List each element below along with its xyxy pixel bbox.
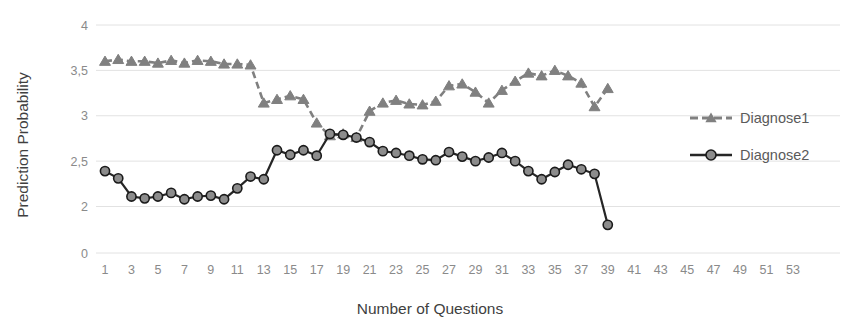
data-point-circle — [206, 191, 215, 200]
x-axis-tick-label: 35 — [548, 263, 562, 277]
data-point-circle — [550, 167, 559, 176]
data-point-circle — [431, 156, 440, 165]
x-axis-tick-label: 37 — [574, 263, 588, 277]
x-axis-tick-label: 41 — [627, 263, 641, 277]
x-axis-tick-label: 47 — [707, 263, 721, 277]
data-point-circle — [272, 146, 281, 155]
y-axis-tick-label: 0 — [81, 247, 88, 261]
data-point-circle — [339, 130, 348, 139]
legend-label-diagnose2[interactable]: Diagnose2 — [740, 147, 809, 163]
data-point-circle — [153, 192, 162, 201]
x-axis-tick-label: 3 — [128, 263, 135, 277]
data-point-circle — [590, 169, 599, 178]
x-axis-tick-label: 31 — [495, 263, 509, 277]
x-axis-tick-labels: 1357911131517192123252729313335373941434… — [102, 263, 800, 277]
x-axis-tick-label: 49 — [733, 263, 747, 277]
y-axis-tick-label: 2 — [81, 200, 88, 214]
data-point-circle — [299, 146, 308, 155]
x-axis-tick-label: 45 — [680, 263, 694, 277]
legend-marker-circle — [706, 150, 716, 160]
data-point-circle — [286, 150, 295, 159]
x-axis-tick-label: 27 — [442, 263, 456, 277]
x-axis-tick-label: 29 — [469, 263, 483, 277]
x-axis-tick-label: 25 — [416, 263, 430, 277]
x-axis-tick-label: 39 — [601, 263, 615, 277]
data-point-circle — [219, 195, 228, 204]
data-point-triangle — [166, 55, 177, 64]
series-line — [105, 134, 608, 225]
x-axis-tick-label: 9 — [207, 263, 214, 277]
data-point-circle — [365, 137, 374, 146]
series-line — [105, 60, 608, 138]
x-axis-tick-label: 5 — [154, 263, 161, 277]
data-point-circle — [167, 188, 176, 197]
data-point-triangle — [377, 98, 388, 107]
x-axis-title: Number of Questions — [357, 300, 504, 317]
data-point-circle — [312, 151, 321, 160]
x-axis-tick-label: 15 — [283, 263, 297, 277]
data-point-circle — [127, 192, 136, 201]
data-point-triangle — [179, 58, 190, 67]
data-point-triangle — [523, 68, 534, 77]
data-point-circle — [100, 167, 109, 176]
data-point-circle — [180, 195, 189, 204]
x-axis-tick-label: 11 — [231, 263, 244, 277]
data-point-circle — [391, 148, 400, 157]
data-point-circle — [563, 160, 572, 169]
data-point-triangle — [391, 95, 402, 104]
x-axis-tick-label: 19 — [336, 263, 350, 277]
data-point-circle — [444, 147, 453, 156]
data-point-circle — [471, 157, 480, 166]
data-point-triangle — [285, 91, 296, 100]
data-series-layer — [100, 54, 614, 229]
x-axis-tick-label: 1 — [102, 263, 109, 277]
data-point-circle — [233, 184, 242, 193]
data-point-triangle — [192, 55, 203, 64]
x-axis-tick-label: 21 — [363, 263, 377, 277]
data-point-circle — [352, 133, 361, 142]
y-axis-tick-label: 3,5 — [71, 64, 88, 78]
x-axis-tick-label: 17 — [310, 263, 324, 277]
x-axis-tick-label: 23 — [389, 263, 403, 277]
y-axis-tick-labels: 022,533,54 — [71, 19, 88, 261]
x-axis-tick-label: 43 — [654, 263, 668, 277]
data-point-circle — [418, 155, 427, 164]
data-point-circle — [484, 153, 493, 162]
x-axis-tick-label: 13 — [257, 263, 271, 277]
data-point-circle — [577, 165, 586, 174]
series-diagnose2 — [100, 129, 612, 229]
data-point-triangle — [602, 83, 613, 92]
y-axis-tick-label: 4 — [81, 19, 88, 33]
x-axis-tick-label: 7 — [181, 263, 188, 277]
y-axis-tick-label: 3 — [81, 109, 88, 123]
data-point-circle — [458, 152, 467, 161]
data-point-triangle — [483, 98, 494, 107]
data-point-circle — [246, 172, 255, 181]
data-point-triangle — [549, 65, 560, 74]
data-point-circle — [378, 147, 387, 156]
chart-legend: Diagnose1Diagnose2 — [690, 110, 809, 163]
data-point-triangle — [576, 78, 587, 87]
data-point-circle — [193, 192, 202, 201]
x-axis-tick-label: 33 — [521, 263, 535, 277]
series-diagnose1 — [100, 54, 614, 141]
data-point-circle — [497, 148, 506, 157]
data-point-circle — [524, 167, 533, 176]
data-point-circle — [405, 151, 414, 160]
x-axis-tick-label: 53 — [786, 263, 800, 277]
data-point-circle — [511, 157, 520, 166]
data-point-circle — [603, 220, 612, 229]
y-axis-title: Prediction Probability — [14, 72, 31, 218]
y-axis-tick-label: 2,5 — [71, 155, 88, 169]
legend-label-diagnose1[interactable]: Diagnose1 — [740, 110, 809, 126]
data-point-circle — [325, 129, 334, 138]
gridlines — [96, 25, 840, 253]
data-point-triangle — [311, 118, 322, 127]
data-point-circle — [140, 194, 149, 203]
data-point-triangle — [430, 96, 441, 105]
data-point-circle — [537, 175, 546, 184]
line-chart: 022,533,54 13579111315171921232527293133… — [0, 0, 855, 335]
data-point-circle — [259, 175, 268, 184]
x-axis-tick-label: 51 — [760, 263, 774, 277]
chart-container: 022,533,54 13579111315171921232527293133… — [0, 0, 855, 335]
